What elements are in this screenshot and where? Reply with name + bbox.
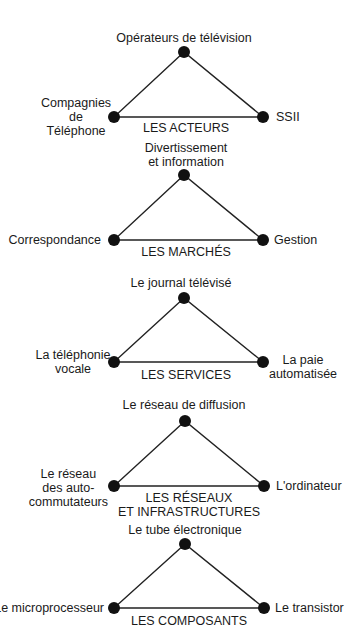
left-label-line: Compagnies: [41, 96, 111, 110]
left-label: Correspondance: [9, 233, 101, 247]
left-label-line: vocale: [35, 362, 110, 376]
triangle-title: LES MARCHÉS: [141, 245, 231, 259]
right-label: SSII: [276, 110, 300, 124]
node-top: [179, 538, 191, 550]
node-right: [257, 234, 269, 246]
triangle-title: LES COMPOSANTS: [131, 614, 247, 628]
left-label: La téléphonie vocale: [35, 348, 110, 376]
left-label-line: de: [41, 110, 111, 124]
triangle-acteurs: [114, 52, 263, 117]
left-label-line: Téléphone: [41, 124, 111, 138]
right-label: La paie automatisée: [269, 353, 337, 381]
triangle-services: [114, 298, 263, 362]
left-label-line: Le réseau: [29, 467, 108, 481]
right-label-line: automatisée: [269, 367, 337, 381]
top-label: Opérateurs de télévision: [116, 31, 252, 45]
left-label: Le réseau des auto- commutateurs: [29, 467, 108, 509]
left-label: Le microprocesseur: [0, 601, 104, 615]
triangle-title-line: LES RÉSEAUX: [118, 491, 260, 505]
triangle-title: LES SERVICES: [141, 368, 231, 382]
node-right: [257, 111, 269, 123]
triangle-composants: [114, 544, 264, 608]
right-label-line: La paie: [269, 353, 337, 367]
left-label-line: des auto-: [29, 481, 108, 495]
right-label: L'ordinateur: [276, 479, 342, 493]
left-label-line: commutateurs: [29, 495, 108, 509]
node-left: [108, 234, 120, 246]
top-label: Le tube électronique: [128, 523, 241, 537]
triangle-title-line: ET INFRASTRUCTURES: [118, 505, 260, 519]
right-label: Le transistor: [275, 601, 344, 615]
triangle-title: LES RÉSEAUX ET INFRASTRUCTURES: [118, 491, 260, 519]
triangle-marches: [114, 175, 263, 240]
node-top: [178, 292, 190, 304]
top-label: Le réseau de diffusion: [123, 398, 246, 412]
node-top: [179, 415, 191, 427]
triangle-reseaux: [114, 421, 264, 486]
top-label: Divertissement et information: [145, 141, 228, 169]
node-top: [178, 169, 190, 181]
node-top: [178, 46, 190, 58]
triangle-title: LES ACTEURS: [143, 121, 229, 135]
triangle-edges: [0, 0, 350, 632]
node-left: [108, 602, 120, 614]
top-label-line: et information: [145, 155, 228, 169]
left-label-line: La téléphonie: [35, 348, 110, 362]
top-label: Le journal télévisé: [131, 276, 232, 290]
left-label: Compagnies de Téléphone: [41, 96, 111, 138]
right-label: Gestion: [274, 233, 317, 247]
node-right: [258, 602, 270, 614]
node-right: [257, 356, 269, 368]
top-label-line: Divertissement: [145, 141, 228, 155]
